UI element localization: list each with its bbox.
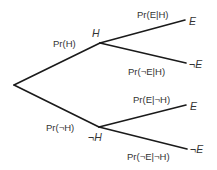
node-h-not-e-label: ¬E [189, 58, 203, 70]
edge-label-pr-e-given-h: Pr(E|H) [137, 9, 169, 20]
probability-tree: H ¬H E ¬E E ¬E Pr(H) Pr(¬H) Pr(E|H) Pr(¬… [0, 0, 217, 170]
edge-label-pr-not-h: Pr(¬H) [46, 122, 74, 133]
edge-label-pr-e-given-not-h: Pr(E|¬H) [133, 94, 170, 105]
edge-label-pr-not-e-given-h: Pr(¬E|H) [128, 66, 165, 77]
node-h-e-label: E [189, 15, 197, 27]
node-not-h-label: ¬H [88, 131, 102, 143]
edge-not-h-not-e [99, 127, 187, 149]
edge-h-not-e [100, 43, 186, 63]
node-not-h-not-e-label: ¬E [190, 143, 204, 155]
edge-root-not-h [14, 85, 99, 127]
edge-label-pr-h: Pr(H) [53, 38, 76, 49]
node-not-h-e-label: E [190, 100, 198, 112]
edge-label-pr-not-e-given-not-h: Pr(¬E|¬H) [127, 151, 170, 162]
node-h-label: H [92, 27, 100, 39]
edge-root-h [14, 43, 100, 85]
edge-h-e [100, 20, 185, 43]
edge-not-h-e [99, 105, 186, 127]
